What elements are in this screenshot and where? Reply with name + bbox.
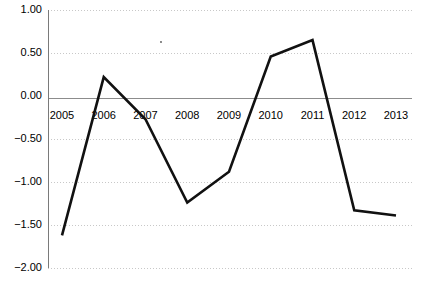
gridlines [48, 11, 412, 269]
x-tick-label: 2008 [175, 109, 199, 121]
y-tick-label: 0.50 [21, 46, 42, 58]
y-tick-label: −1.00 [14, 175, 42, 187]
y-tick-label: 0.00 [21, 89, 42, 101]
x-tick-label: 2005 [50, 109, 74, 121]
x-tick-label: 2009 [217, 109, 241, 121]
x-tick-label: 2010 [259, 109, 283, 121]
x-tick-label: 2011 [301, 109, 325, 121]
y-tick-label: −2.00 [14, 261, 42, 273]
x-tick-label: 2013 [384, 109, 408, 121]
chart-canvas: 1.000.500.00−0.50−1.00−1.50−2.00 2005200… [0, 0, 421, 291]
stray-speck [160, 41, 162, 43]
y-tick-label: −0.50 [14, 132, 42, 144]
line-chart: 1.000.500.00−0.50−1.00−1.50−2.00 2005200… [0, 0, 421, 291]
series-line-1 [62, 40, 396, 235]
y-tick-label: 1.00 [21, 3, 42, 15]
y-axis-tick-labels: 1.000.500.00−0.50−1.00−1.50−2.00 [14, 3, 42, 273]
y-tick-label: −1.50 [14, 218, 42, 230]
x-axis-tick-labels: 200520062007200820092010201120122013 [50, 109, 408, 121]
x-tick-label: 2012 [342, 109, 366, 121]
